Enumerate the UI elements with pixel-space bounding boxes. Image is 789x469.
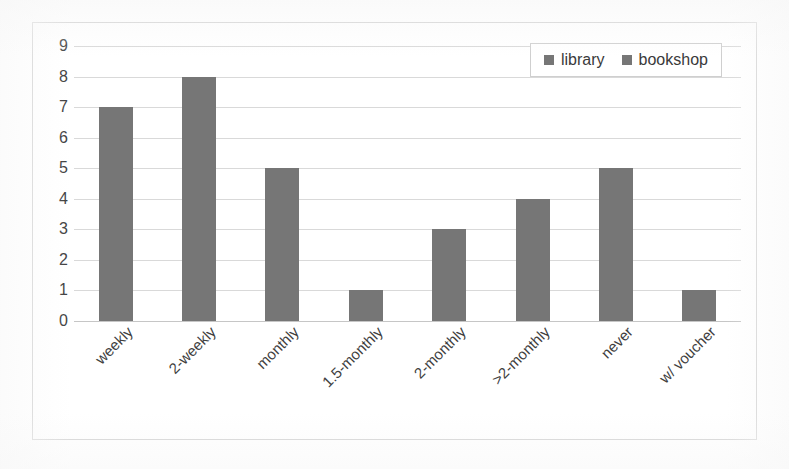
x-tick-label: 2-monthly (372, 323, 469, 420)
x-tick-label: never (539, 323, 636, 420)
gridline-5 (74, 168, 741, 169)
legend-entry: bookshop (622, 51, 708, 69)
legend-entry: library (544, 51, 605, 69)
y-tick-label: 4 (42, 191, 68, 207)
y-tick-label: 8 (42, 69, 68, 85)
y-tick-label: 7 (42, 99, 68, 115)
x-tick-label: monthly (206, 323, 303, 420)
gridline-1 (74, 290, 741, 291)
gridline-3 (74, 229, 741, 230)
y-tick-label: 3 (42, 221, 68, 237)
x-tick-label: weekly (39, 323, 136, 420)
x-tick-label: 1.5-monthly (289, 323, 386, 420)
y-tick-label: 6 (42, 130, 68, 146)
x-axis-tick-labels: weekly2-weeklymonthly1.5-monthly2-monthl… (74, 323, 741, 433)
gridline-4 (74, 199, 741, 200)
gridline-0 (74, 321, 741, 322)
chart-frame: 9876543210 weekly2-weeklymonthly1.5-mont… (32, 22, 757, 440)
y-tick-label: 2 (42, 252, 68, 268)
y-tick-label: 0 (42, 313, 68, 329)
bar (349, 290, 383, 321)
bar (599, 168, 633, 321)
gridline-2 (74, 260, 741, 261)
legend-swatch-icon (622, 55, 632, 65)
bar (99, 107, 133, 321)
x-tick-label: 2-weekly (122, 323, 219, 420)
legend-label: bookshop (639, 51, 708, 69)
bar (182, 77, 216, 321)
legend-swatch-icon (544, 55, 554, 65)
plot-area (74, 46, 741, 321)
chart-legend: librarybookshop (530, 43, 722, 77)
gridline-6 (74, 138, 741, 139)
legend-label: library (561, 51, 605, 69)
y-axis-tick-labels: 9876543210 (38, 46, 68, 321)
x-tick-label: >2-monthly (456, 323, 553, 420)
bar (265, 168, 299, 321)
y-tick-label: 9 (42, 38, 68, 54)
x-tick-label: w/ voucher (622, 323, 719, 420)
y-tick-label: 1 (42, 282, 68, 298)
bar (516, 199, 550, 321)
bar (682, 290, 716, 321)
gridline-7 (74, 107, 741, 108)
y-tick-label: 5 (42, 160, 68, 176)
bar (432, 229, 466, 321)
